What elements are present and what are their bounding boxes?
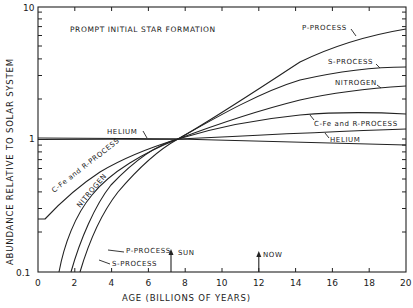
pointer-helium-left [143,131,147,138]
label-p-process-left: P-PROCESS [126,247,171,255]
curve-cfe-r-process [38,113,406,219]
sun-marker: SUN [169,249,195,272]
pointer-p-process [351,29,356,36]
svg-text:4: 4 [109,278,115,288]
curve-nitrogen [59,86,406,272]
y-tick-10: 10 [23,3,35,13]
pointer-cfe [310,115,314,120]
svg-text:2: 2 [72,278,78,288]
svg-text:NOW: NOW [263,251,282,259]
pointer-s-process-left [99,260,110,264]
label-helium-left: HELIUM [107,128,137,136]
svg-text:SUN: SUN [178,249,195,257]
abundance-chart: 10 1 0.1 0 2 4 6 8 10 12 14 16 18 20 AGE… [0,0,413,308]
chart-title: PROMPT INITIAL STAR FORMATION [70,25,216,34]
svg-text:16: 16 [327,278,339,288]
label-cfe-right: C-Fe and R-PROCESS [314,120,398,128]
label-s-process-left: S-PROCESS [112,260,157,268]
svg-text:14: 14 [290,278,302,288]
y-tick-1: 1 [29,134,35,144]
pointer-p-process-left [108,250,124,252]
pointer-helium-right [325,133,329,138]
svg-text:6: 6 [146,278,152,288]
x-tick-labels: 0 2 4 6 8 10 12 14 16 18 20 [35,278,412,288]
label-nitrogen-right: NITROGEN [335,79,377,87]
y-axis-title: ABUNDANCE RELATIVE TO SOLAR SYSTEM [5,58,15,265]
now-marker: NOW [256,251,282,272]
curve-s-process [80,67,406,272]
label-p-process-right: P-PROCESS [302,24,347,32]
pointer-nitrogen [377,85,381,88]
svg-text:12: 12 [253,278,264,288]
label-helium-right: HELIUM [330,136,360,144]
svg-text:18: 18 [364,278,376,288]
x-axis-title: AGE (BILLIONS OF YEARS) [122,293,251,303]
top-ticks [75,7,369,11]
svg-text:10: 10 [216,278,228,288]
svg-text:8: 8 [182,278,188,288]
y-tick-0.1: 0.1 [16,268,30,278]
label-s-process-right: S-PROCESS [328,58,373,66]
pointer-s-process [376,64,380,68]
svg-text:20: 20 [400,278,412,288]
svg-text:0: 0 [35,278,41,288]
arrow-up-icon [256,251,261,257]
bottom-ticks [75,268,369,272]
